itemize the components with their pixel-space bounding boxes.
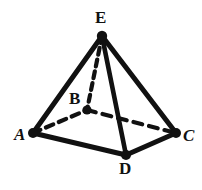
vertex-label-b: B xyxy=(69,90,80,107)
vertex-label-c: C xyxy=(183,127,194,144)
vertex-label-d: D xyxy=(119,160,131,177)
edge-AD xyxy=(33,133,126,155)
geometry-figure: EABCD xyxy=(0,0,202,190)
vertex-dot-b xyxy=(82,105,91,114)
vertex-dot-a xyxy=(28,128,38,138)
visible-edges-group xyxy=(33,36,176,155)
edge-DC xyxy=(126,133,176,155)
vertex-label-a: A xyxy=(14,126,25,143)
vertex-label-e: E xyxy=(95,9,106,26)
vertex-dot-c xyxy=(171,128,181,138)
pyramid-drawing xyxy=(0,0,202,190)
vertex-dot-e xyxy=(97,31,107,41)
